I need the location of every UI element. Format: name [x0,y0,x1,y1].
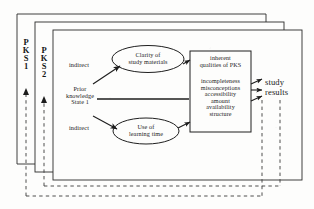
edge-label-indirect-lower: indirect [60,125,98,132]
feedback-arrowhead-pks1 [23,88,29,95]
layer-label-pks1: P K S 1 [19,38,33,71]
node-study-results-label: study results [265,78,307,97]
node-qualities-header-label: inherent qualities of PKS [190,55,251,68]
figure-canvas: P K S 1 P K S 2 indirect indirect Prior … [0,0,314,209]
edge-label-indirect-upper: indirect [60,62,98,69]
node-clarity-label: Clarity of study materials [114,52,182,65]
node-prior-knowledge-label: Prior knowledge State 1 [58,86,102,106]
layer-label-pks2: P K S 2 [37,46,51,79]
node-learning-time-label: Use of learning time [115,124,177,137]
node-qualities-list-label: incompleteness misconceptions accessibil… [189,78,252,117]
diagram-graphics [0,0,314,209]
